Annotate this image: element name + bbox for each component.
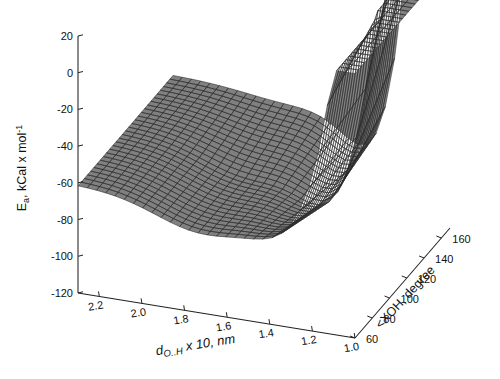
x-tick-mark: [184, 305, 185, 310]
svg-text:Ea, kCal x mol-1: Ea, kCal x mol-1: [14, 125, 31, 212]
surface-mesh: [78, 0, 450, 239]
z-tick-mark: [78, 72, 83, 73]
svg-text:<XOH, degree: <XOH, degree: [373, 263, 438, 331]
x-tick-label: 2.2: [87, 298, 104, 312]
y-tick-label: 140: [435, 253, 453, 265]
x-tick-mark: [99, 291, 100, 296]
y-tick-label: 160: [452, 233, 470, 245]
z-tick-label: -80: [57, 214, 73, 226]
y-tick-label: 60: [366, 333, 378, 345]
z-tick-mark: [78, 108, 83, 109]
z-tick-label: -20: [57, 103, 73, 115]
z-tick-mark: [78, 145, 83, 146]
x-tick-label: 1.2: [300, 333, 317, 347]
y-tick-mark: [385, 296, 390, 298]
depth-axis-title: <XOH, degree: [373, 263, 438, 331]
x-tick-mark: [141, 298, 142, 303]
z-tick-label: -100: [51, 250, 73, 262]
x-tick-mark: [312, 326, 313, 331]
z-axis-title: Ea, kCal x mol-1: [14, 125, 31, 212]
x-tick-label: 1.4: [258, 326, 275, 340]
y-tick-mark: [402, 276, 407, 278]
z-tick-label: -40: [57, 140, 73, 152]
x-tick-mark: [269, 319, 270, 324]
x-tick-label: 1.8: [172, 312, 189, 326]
y-tick-mark: [436, 236, 441, 238]
x-tick-label: 1.0: [343, 340, 360, 354]
z-tick-label: 20: [61, 30, 73, 42]
z-tick-mark: [78, 218, 83, 219]
y-tick-mark: [419, 256, 424, 258]
z-tick-mark: [78, 255, 83, 256]
y-tick-mark: [367, 316, 372, 318]
surface-quads: [78, 0, 450, 239]
svg-text:dO..H x 10, nm: dO..H x 10, nm: [154, 331, 236, 360]
z-tick-mark: [78, 35, 83, 36]
figure-container: 200-20-40-60-80-100-120 2.22.01.81.61.41…: [0, 0, 500, 379]
surface-plot-svg: 200-20-40-60-80-100-120 2.22.01.81.61.41…: [0, 0, 500, 379]
x-axis-title: dO..H x 10, nm: [154, 331, 236, 360]
z-tick-label: -120: [51, 287, 73, 299]
z-tick-label: 0: [67, 67, 73, 79]
z-tick-label: -60: [57, 177, 73, 189]
x-tick-mark: [226, 312, 227, 317]
x-tick-label: 2.0: [130, 305, 147, 319]
